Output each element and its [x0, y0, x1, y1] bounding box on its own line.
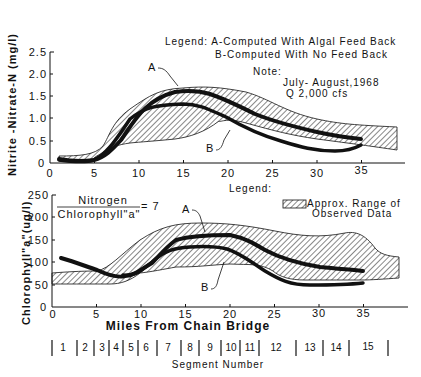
top-legend-b: B-Computed With No Feed Back [215, 49, 388, 60]
top-y-ticks: 0 0.5 1.0 1.5 2.0 2.5 [29, 46, 53, 169]
svg-text:Chlorophyll"a": Chlorophyll"a" [58, 208, 141, 220]
svg-text:4: 4 [113, 342, 119, 353]
svg-text:5: 5 [128, 342, 134, 353]
svg-text:2.5: 2.5 [29, 46, 47, 58]
svg-text:1.0: 1.0 [29, 112, 47, 124]
svg-text:30: 30 [312, 307, 326, 319]
svg-text:20: 20 [221, 167, 235, 179]
svg-text:1: 1 [60, 342, 66, 353]
svg-text:150: 150 [28, 234, 49, 246]
svg-text:2: 2 [82, 342, 88, 353]
svg-text:50: 50 [35, 279, 49, 291]
svg-text:0: 0 [49, 308, 56, 320]
svg-text:8: 8 [187, 342, 193, 353]
svg-text:35: 35 [354, 164, 368, 176]
figure: Nitrite -Nitrate-N (mg/l) A B 0 0.5 1.0 … [0, 0, 421, 377]
svg-text:15: 15 [362, 341, 374, 352]
svg-text:25: 25 [265, 167, 279, 179]
x-axis-title: Miles From Chain Bridge [106, 319, 270, 333]
svg-text:0: 0 [38, 157, 45, 169]
note-line-1: July- August,1968 [283, 77, 380, 88]
band-legend-line-2: Observed Data [312, 208, 392, 219]
svg-text:3: 3 [99, 342, 105, 353]
note-title: Note: [253, 66, 282, 77]
svg-text:0.5: 0.5 [29, 135, 47, 147]
svg-text:14: 14 [330, 342, 342, 353]
svg-text:1.5: 1.5 [29, 90, 47, 102]
svg-text:10: 10 [132, 167, 146, 179]
svg-text:30: 30 [310, 167, 324, 179]
bottom-x-ticks: 0 5 10 15 20 25 30 35 [49, 304, 370, 320]
svg-text:200: 200 [28, 211, 49, 223]
svg-text:10: 10 [225, 342, 237, 353]
svg-text:11: 11 [245, 342, 256, 353]
svg-text:6: 6 [143, 342, 149, 353]
bottom-chart: Chlorophyll"a"(ug/l) A B 0 50 100 150 20… [20, 183, 408, 333]
svg-text:15: 15 [176, 167, 190, 179]
svg-text:9: 9 [207, 342, 213, 353]
top-y-axis-title: Nitrite -Nitrate-N (mg/l) [6, 33, 18, 176]
svg-text:7: 7 [165, 342, 171, 353]
bottom-curve-b-label: B [201, 281, 209, 293]
svg-text:Nitrogen: Nitrogen [78, 194, 128, 206]
top-curve-a-leader [158, 68, 178, 86]
svg-text:2.0: 2.0 [29, 68, 47, 80]
top-curve-a-label: A [148, 61, 156, 73]
svg-text:0: 0 [46, 167, 53, 179]
svg-text:5: 5 [93, 308, 100, 320]
svg-text:0: 0 [40, 301, 47, 313]
bottom-curve-a-label: A [182, 203, 190, 215]
bottom-curve-b-leader [211, 262, 224, 289]
svg-text:13: 13 [304, 342, 316, 353]
nitrogen-ratio-annotation: Nitrogen Chlorophyll"a" = 7 [57, 194, 160, 220]
top-chart: Nitrite -Nitrate-N (mg/l) A B 0 0.5 1.0 … [6, 33, 405, 179]
note-line-2: Q 2,000 cfs [286, 88, 348, 99]
svg-text:12: 12 [270, 342, 282, 353]
svg-text:100: 100 [28, 256, 49, 268]
top-legend-a: Legend: A-Computed With Algal Feed Back [165, 36, 396, 47]
svg-text:250: 250 [28, 189, 49, 201]
svg-text:= 7: = 7 [141, 200, 160, 212]
top-curve-b-leader [216, 130, 230, 150]
svg-text:5: 5 [91, 167, 98, 179]
segment-strip: 1 2 3 4 5 6 7 8 9 10 11 12 13 14 15 Segm… [52, 340, 388, 370]
top-curve-b-label: B [206, 142, 214, 154]
svg-text:35: 35 [356, 307, 370, 319]
bottom-legend-title: Legend: [229, 183, 272, 194]
hatch-swatch-icon [283, 200, 306, 208]
segment-title: Segment Number [172, 359, 264, 370]
